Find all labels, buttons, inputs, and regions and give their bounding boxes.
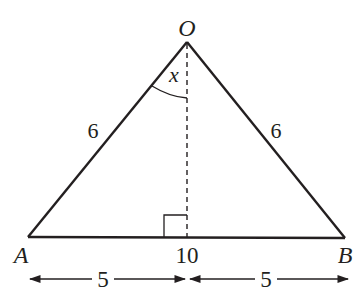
half-length-left: 5 xyxy=(97,267,109,292)
side-label-left: 6 xyxy=(88,118,99,143)
side-oa xyxy=(28,42,187,237)
side-ob xyxy=(187,42,345,238)
triangle-diagram: O x 6 6 A 10 B 5 5 xyxy=(0,0,357,294)
vertex-label-a: A xyxy=(12,242,29,268)
vertex-label-b: B xyxy=(338,242,353,268)
vertex-label-o: O xyxy=(178,15,195,41)
diagram-canvas: O x 6 6 A 10 B 5 5 xyxy=(0,0,357,294)
side-label-right: 6 xyxy=(271,118,282,143)
half-length-right: 5 xyxy=(260,267,272,292)
angle-label-x: x xyxy=(168,62,179,87)
angle-arc xyxy=(152,86,187,98)
base-label: 10 xyxy=(176,243,199,268)
side-ab xyxy=(28,237,345,238)
right-angle-marker xyxy=(164,215,187,237)
